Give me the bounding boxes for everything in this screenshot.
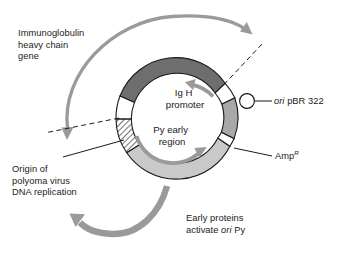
py-early-region-label: Py early region — [153, 124, 190, 147]
ori-pbr322-label: ori pBR 322 — [274, 96, 324, 106]
ig-h-promoter-label: Ig H promoter — [166, 87, 205, 110]
polyoma-origin-label: Origin of polyoma virus DNA replication — [12, 164, 77, 197]
amp-r-segment — [221, 98, 238, 139]
early-proteins-label: Early proteins activate ori Py — [186, 213, 246, 235]
polyoma-origin-leader-line — [63, 140, 124, 157]
immunoglobulin-span-arrowhead-left — [61, 127, 73, 140]
immunoglobulin-heavy-chain-gene-label: Immunoglobulin heavy chain gene — [18, 28, 87, 61]
ori-pbr322-circle-marker — [240, 94, 255, 109]
plasmid-map-figure: Immunoglobulin heavy chain gene ori pBR … — [0, 0, 347, 263]
diagram-canvas: Immunoglobulin heavy chain gene ori pBR … — [0, 0, 347, 263]
ig-gene-boundary-dashed-left — [47, 118, 119, 133]
ig-h-gene-segment — [120, 58, 225, 103]
amp-r-leader-line — [234, 148, 272, 156]
ig-gene-boundary-dashed-top — [224, 43, 263, 85]
amp-resistance-label: AmpR — [275, 149, 299, 161]
early-proteins-activation-arrow — [80, 186, 167, 234]
